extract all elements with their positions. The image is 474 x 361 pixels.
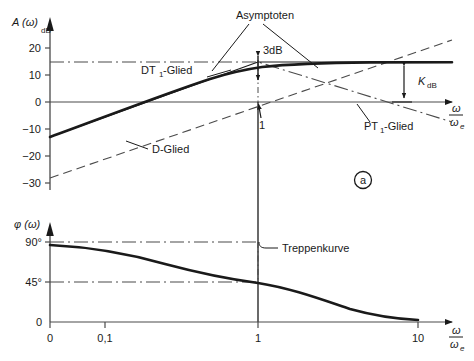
k-db-label-main: K xyxy=(418,75,426,87)
one-marker-label: 1 xyxy=(259,119,265,131)
phase-xaxis-label-num: ω xyxy=(452,324,461,336)
asymptoten-label: Asymptoten xyxy=(236,9,294,21)
asymptoten-leader-left xyxy=(212,24,249,71)
series-pt1-glied xyxy=(50,62,452,122)
figure-letter: a xyxy=(360,174,367,186)
series-d-glied xyxy=(50,40,452,178)
amp-ytick-minus30: −30 xyxy=(22,177,41,189)
phase-ytick-0: 0 xyxy=(36,316,42,328)
phase-ytick-90: 90° xyxy=(25,236,42,248)
bode-plot-svg: 20 10 0 −10 −20 −30 A (ω) dB ω ω e xyxy=(0,0,474,361)
phase-y-ticks xyxy=(45,242,50,282)
amplitude-plot: 20 10 0 −10 −20 −30 A (ω) dB ω ω e xyxy=(11,9,465,322)
amp-ytick-minus10: −10 xyxy=(22,123,41,135)
bode-plot-figure: 20 10 0 −10 −20 −30 A (ω) dB ω ω e xyxy=(0,0,474,361)
three-db-label: 3dB xyxy=(263,44,283,56)
phase-y-axis-arrow xyxy=(46,222,54,236)
d-glied-label: D-Glied xyxy=(152,143,189,155)
xtick-1: 1 xyxy=(255,332,261,344)
amp-xaxis-label-num: ω xyxy=(452,102,461,114)
amplitude-axis-label: A (ω) xyxy=(11,16,38,28)
dt1-glied-label-tail: -Glied xyxy=(163,64,192,76)
phase-ytick-45: 45° xyxy=(25,276,42,288)
phase-x-ticks xyxy=(50,322,418,328)
amp-ytick-0: 0 xyxy=(35,96,41,108)
treppenkurve-leader xyxy=(259,242,278,248)
phase-plot: 90° 45° 0 φ (ω) 0 0,1 1 10 ω ω e xyxy=(14,218,465,353)
treppenkurve-label: Treppenkurve xyxy=(282,242,349,254)
k-db-bracket xyxy=(392,62,412,102)
k-db-label-sub: dB xyxy=(427,81,437,90)
one-marker-arrow xyxy=(259,104,262,118)
amp-ytick-minus20: −20 xyxy=(22,150,41,162)
pt1-glied-label-main: PT xyxy=(364,120,378,132)
phase-xaxis-label-den: ω xyxy=(450,338,459,350)
xtick-10: 10 xyxy=(412,332,424,344)
amplitude-axis-unit: dB xyxy=(41,26,51,35)
amp-ytick-10: 10 xyxy=(29,69,41,81)
amplitude-y-ticks xyxy=(45,48,50,183)
amp-ytick-20: 20 xyxy=(29,42,41,54)
phase-xaxis-label-den-sub: e xyxy=(460,344,465,353)
pt1-glied-label-tail: -Glied xyxy=(384,120,413,132)
xtick-0: 0 xyxy=(47,332,53,344)
dt1-glied-label-main: DT xyxy=(141,64,156,76)
amp-xaxis-label-den-sub: e xyxy=(460,122,465,131)
xtick-0.1: 0,1 xyxy=(97,332,112,344)
phase-axis-label: φ (ω) xyxy=(14,218,40,230)
